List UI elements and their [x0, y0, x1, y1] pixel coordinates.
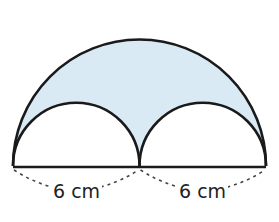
right-diameter-label: 6 cm	[177, 181, 228, 201]
shaded-region	[13, 40, 266, 167]
semicircle-diagram	[0, 0, 279, 222]
left-diameter-label: 6 cm	[51, 181, 102, 201]
